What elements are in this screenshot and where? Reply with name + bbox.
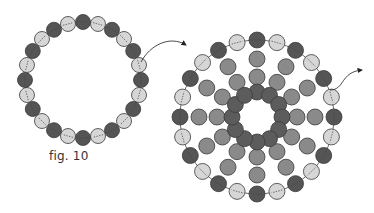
large-bead-ring-with-spokes [172, 32, 342, 202]
spoke-bead [249, 51, 265, 67]
spoke-bead [220, 59, 236, 75]
spoke-bead [209, 109, 225, 125]
light-bead [132, 88, 147, 103]
beadwork-diagram [0, 0, 374, 213]
dark-bead [105, 123, 120, 138]
spoke-bead [289, 109, 305, 125]
spoke-bead [249, 69, 265, 85]
light-bead [60, 16, 75, 31]
spoke-bead [299, 80, 315, 96]
spoke-bead [249, 149, 265, 165]
light-bead [19, 57, 34, 72]
light-bead [19, 88, 34, 103]
spoke-bead [278, 159, 294, 175]
spoke-bead [249, 167, 265, 183]
dark-bead [126, 44, 141, 59]
spoke-bead [220, 159, 236, 175]
spoke-bead [191, 109, 207, 125]
small-bead-ring [18, 15, 149, 146]
spoke-bead [199, 138, 215, 154]
light-bead [91, 129, 106, 144]
spoke-bead [278, 59, 294, 75]
light-bead [132, 57, 147, 72]
inner-ring-bead [237, 87, 253, 103]
dark-bead [47, 22, 62, 37]
spoke-bead [199, 80, 215, 96]
dark-bead [25, 102, 40, 117]
spoke-bead [299, 138, 315, 154]
light-bead [60, 129, 75, 144]
light-bead [91, 16, 106, 31]
spoke-bead [307, 109, 323, 125]
arrow-exit-large-ring-icon [330, 70, 362, 90]
arrow-to-large-ring-icon [141, 41, 186, 62]
figure-caption: fig. 10 [49, 149, 88, 163]
